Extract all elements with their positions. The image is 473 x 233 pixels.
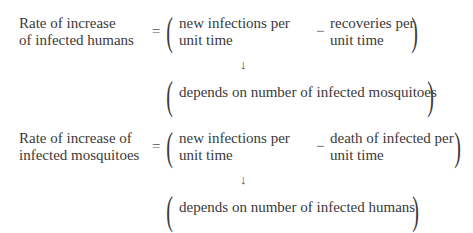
lhs-line-2: infected mosquitoes [19,147,139,163]
open-paren: ( [166,123,173,170]
note-open-paren: ( [166,72,173,119]
open-paren: ( [166,8,173,55]
term-deaths-line-1: death of infected per [330,130,454,146]
minus-sign: − [316,138,324,155]
note-close-paren: ) [412,187,419,233]
note-close-paren: ) [427,72,434,119]
lhs-line-1: Rate of increase [19,15,116,31]
dependency-note: depends on number of infected humans [179,199,415,215]
note-open-paren: ( [166,187,173,233]
dependency-note: depends on number of infected mosquitoes [179,84,437,100]
down-arrow-icon: ↓ [240,172,247,188]
term-new-infections-line-1: new infections per [179,130,290,146]
term-new-infections-line-1: new infections per [179,15,290,31]
term-recoveries-line-2: unit time [330,32,384,48]
minus-sign: − [316,23,324,40]
close-paren: ) [411,8,418,55]
lhs-line-1: Rate of increase of [19,130,132,146]
term-deaths-line-2: unit time [330,147,384,163]
down-arrow-icon: ↓ [240,57,247,73]
term-new-infections-line-2: unit time [179,147,233,163]
close-paren: ) [454,123,461,170]
term-new-infections-line-2: unit time [179,32,233,48]
equals-sign: = [152,23,160,40]
term-recoveries-line-1: recoveries per [330,15,415,31]
lhs-line-2: of infected humans [19,32,134,48]
equals-sign: = [152,138,160,155]
